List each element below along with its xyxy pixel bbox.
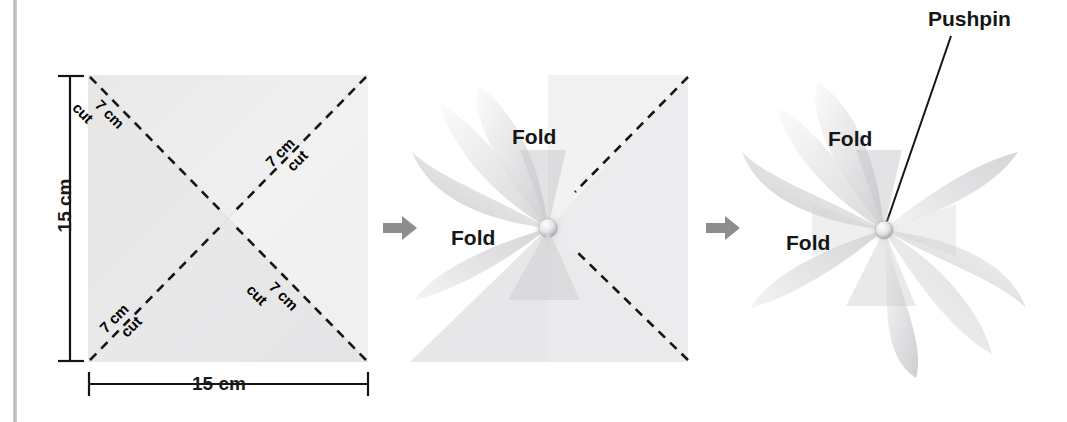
fold-label-step3-top: Fold: [828, 128, 872, 149]
height-dimension-label: 15 cm: [55, 179, 74, 233]
step3-graphics: [742, 36, 1026, 378]
figure-graphics: [0, 0, 1067, 422]
width-dimension-label: 15 cm: [192, 374, 246, 393]
pushpin-callout-label: Pushpin: [928, 8, 1011, 29]
arrow-2-graphic: [706, 216, 740, 240]
step2-graphics: [410, 75, 688, 362]
arrow-1-graphic: [383, 216, 417, 240]
fold-label-step2-left: Fold: [451, 227, 495, 248]
pinwheel-figure: 15 cm 15 cm 7 cm cut 7 cm cut 7 cm cut 7…: [0, 0, 1067, 422]
fold-label-step3-left: Fold: [786, 232, 830, 253]
fold-label-step2-top: Fold: [512, 126, 556, 147]
